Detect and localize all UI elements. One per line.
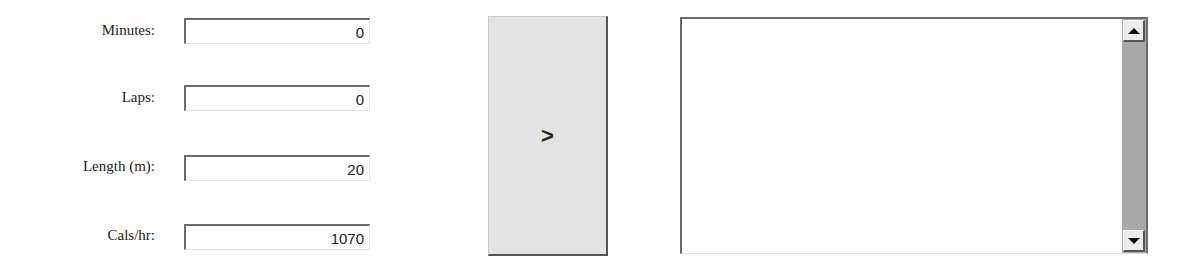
minutes-input[interactable] bbox=[184, 18, 370, 44]
length-input[interactable] bbox=[184, 155, 370, 181]
laps-input[interactable] bbox=[184, 85, 370, 111]
length-label: Length (m): bbox=[0, 158, 155, 175]
minutes-label: Minutes: bbox=[0, 22, 155, 39]
laps-label: Laps: bbox=[0, 89, 155, 106]
vertical-scrollbar[interactable] bbox=[1122, 19, 1146, 253]
cals-per-hour-label: Cals/hr: bbox=[0, 227, 155, 244]
scrollbar-track[interactable] bbox=[1122, 43, 1146, 229]
calculate-button[interactable]: > bbox=[488, 16, 608, 256]
cals-per-hour-input[interactable] bbox=[184, 224, 370, 250]
output-textarea[interactable] bbox=[680, 17, 1148, 254]
triangle-up-icon bbox=[1128, 28, 1140, 34]
scroll-down-button[interactable] bbox=[1123, 230, 1145, 252]
output-text[interactable] bbox=[682, 19, 1122, 253]
triangle-down-icon bbox=[1128, 238, 1140, 244]
scroll-up-button[interactable] bbox=[1123, 20, 1145, 42]
